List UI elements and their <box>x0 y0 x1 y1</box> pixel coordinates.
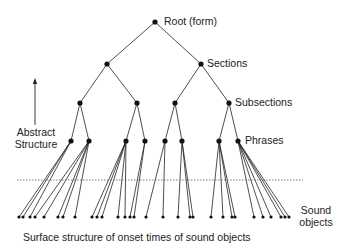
sound-object-node <box>90 215 93 218</box>
edge-phrase-leaf <box>23 141 71 217</box>
sound-object-node <box>252 215 255 218</box>
edge-phrase-leaf <box>211 141 219 217</box>
sound-object-node <box>269 215 272 218</box>
edge-phrase-leaf <box>134 141 145 217</box>
edge-root-section <box>155 22 201 64</box>
sound-object-node <box>261 215 264 218</box>
phrase-node <box>179 138 184 143</box>
sound-object-node <box>283 215 286 218</box>
tree-nodes <box>17 19 290 218</box>
edge-section-subsection <box>107 64 137 103</box>
sound-object-node <box>56 215 59 218</box>
sound-object-node <box>123 215 126 218</box>
label-abstract-line2: Structure <box>14 138 58 150</box>
abstract-structure-up-arrow-icon <box>33 78 37 125</box>
edge-phrase-leaf <box>182 141 193 217</box>
phrase-node <box>123 138 128 143</box>
phrase-node <box>162 138 167 143</box>
label-sections: Sections <box>207 57 247 69</box>
label-subsections: Subsections <box>235 96 292 108</box>
sound-object-node <box>100 215 103 218</box>
edge-phrase-leaf <box>92 141 126 217</box>
edge-subsection-phrase <box>219 103 229 141</box>
caption: Surface structure of onset times of soun… <box>23 231 251 243</box>
edge-subsection-phrase <box>80 103 89 141</box>
sound-object-node <box>176 215 179 218</box>
sound-object-node <box>95 215 98 218</box>
sound-object-node <box>161 215 164 218</box>
sound-object-node <box>279 215 282 218</box>
phrase-node <box>68 138 73 143</box>
label-sound-line1: Sound <box>296 204 336 216</box>
edge-phrase-leaf <box>130 141 145 217</box>
edge-phrase-leaf <box>238 141 271 217</box>
sound-object-node <box>128 215 131 218</box>
edge-phrase-leaf <box>238 141 285 217</box>
edge-section-subsection <box>175 64 201 103</box>
edge-phrase-leaf <box>58 141 89 217</box>
sound-object-node <box>73 215 76 218</box>
sound-object-node <box>132 215 135 218</box>
sound-object-node <box>221 215 224 218</box>
edge-subsection-phrase <box>229 103 238 141</box>
label-sound-objects: Sound objects <box>296 204 336 228</box>
sound-object-node <box>28 215 31 218</box>
phrase-node <box>86 138 91 143</box>
sound-object-node <box>21 215 24 218</box>
edge-phrase-leaf <box>178 141 182 217</box>
edge-subsection-phrase <box>126 103 137 141</box>
sound-object-node <box>17 215 20 218</box>
sound-object-node <box>191 215 194 218</box>
sound-object-node <box>61 215 64 218</box>
section-node <box>198 61 203 66</box>
edge-subsection-phrase <box>165 103 175 141</box>
label-sound-line2: objects <box>296 216 336 228</box>
phrase-node <box>142 138 147 143</box>
label-root: Root (form) <box>164 15 217 27</box>
subsection-node <box>77 100 82 105</box>
edge-phrase-leaf <box>35 141 89 217</box>
sound-object-node <box>209 215 212 218</box>
sound-object-node <box>116 215 119 218</box>
sound-object-node <box>287 215 290 218</box>
edge-phrase-leaf <box>163 141 165 217</box>
edge-subsection-phrase <box>137 103 145 141</box>
sound-object-node <box>188 215 191 218</box>
edge-subsection-phrase <box>175 103 182 141</box>
edge-section-subsection <box>80 64 107 103</box>
subsection-node <box>172 100 177 105</box>
sound-object-node <box>33 215 36 218</box>
label-phrases: Phrases <box>245 134 284 146</box>
label-abstract-structure: Abstract Structure <box>14 126 58 150</box>
sound-object-node <box>230 215 233 218</box>
edge-phrase-leaf <box>146 141 165 217</box>
sound-object-node <box>42 215 45 218</box>
edge-section-subsection <box>201 64 229 103</box>
subsection-node <box>134 100 139 105</box>
subsection-node <box>226 100 231 105</box>
root-node <box>152 19 157 24</box>
edge-phrase-leaf <box>19 141 71 217</box>
sound-object-node <box>233 215 236 218</box>
edge-phrase-leaf <box>182 141 190 217</box>
edge-subsection-phrase <box>71 103 80 141</box>
sound-object-node <box>144 215 147 218</box>
phrase-node <box>235 138 240 143</box>
section-node <box>104 61 109 66</box>
phrase-node <box>216 138 221 143</box>
label-abstract-line1: Abstract <box>14 126 58 138</box>
edge-root-section <box>107 22 155 64</box>
tree-edges <box>19 22 289 217</box>
